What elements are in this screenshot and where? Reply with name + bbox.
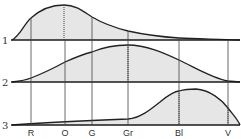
row-label-3: 3 (2, 120, 8, 131)
band-label-r: R (28, 128, 35, 138)
band-label-gr: Gr (123, 128, 133, 138)
spectral-curves-figure: 1 2 3 R O G Gr Bl V (0, 0, 241, 139)
band-label-v: V (225, 128, 231, 138)
curve-3 (11, 89, 240, 125)
band-label-g: G (88, 128, 95, 138)
curve-2-fill (12, 45, 240, 82)
curve-1-fill (12, 5, 240, 40)
curve-1 (11, 5, 240, 40)
row-label-1: 1 (2, 35, 8, 46)
curve-2 (11, 45, 240, 82)
row-label-2: 2 (2, 77, 8, 88)
band-label-o: O (61, 128, 68, 138)
band-label-bl: Bl (175, 128, 183, 138)
diagram-canvas: 1 2 3 R O G Gr Bl V (0, 0, 241, 139)
